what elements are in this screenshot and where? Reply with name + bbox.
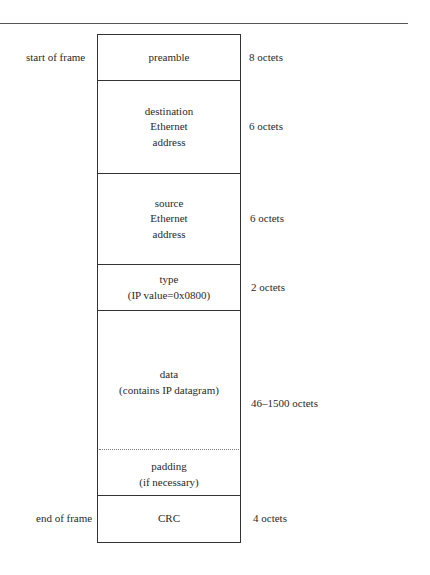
field-source: source Ethernet address — [97, 174, 241, 265]
data-padding-divider — [99, 449, 239, 450]
field-padding: padding (if necessary) — [97, 459, 241, 490]
field-crc: CRC — [97, 496, 241, 543]
field-crc-label: CRC — [158, 511, 180, 527]
field-destination-line1: destination — [145, 104, 193, 120]
top-rule — [0, 23, 408, 24]
field-type-line2: (IP value=0x0800) — [128, 288, 210, 304]
field-type: type (IP value=0x0800) — [97, 265, 241, 311]
field-preamble: preamble — [97, 34, 241, 81]
field-data-line1: data — [97, 367, 241, 383]
field-source-size: 6 octets — [250, 212, 284, 224]
field-padding-line2: (if necessary) — [97, 475, 241, 491]
field-source-line1: source — [155, 196, 184, 212]
start-of-frame-label: start of frame — [26, 51, 85, 63]
field-source-line2: Ethernet — [150, 211, 187, 227]
field-data-line2: (contains IP datagram) — [97, 383, 241, 399]
field-preamble-size: 8 octets — [249, 51, 283, 63]
field-preamble-label: preamble — [149, 50, 190, 66]
field-destination-line3: address — [153, 135, 186, 151]
field-crc-size: 4 octets — [253, 512, 287, 524]
field-type-line1: type — [160, 272, 179, 288]
field-destination: destination Ethernet address — [97, 81, 241, 174]
field-type-size: 2 octets — [251, 281, 285, 293]
field-data: data (contains IP datagram) — [97, 367, 241, 398]
end-of-frame-label: end of frame — [36, 512, 92, 524]
field-destination-size: 6 octets — [249, 120, 283, 132]
field-source-line3: address — [153, 227, 186, 243]
field-data-size: 46–1500 octets — [251, 397, 318, 409]
field-padding-line1: padding — [97, 459, 241, 475]
field-destination-line2: Ethernet — [150, 119, 187, 135]
